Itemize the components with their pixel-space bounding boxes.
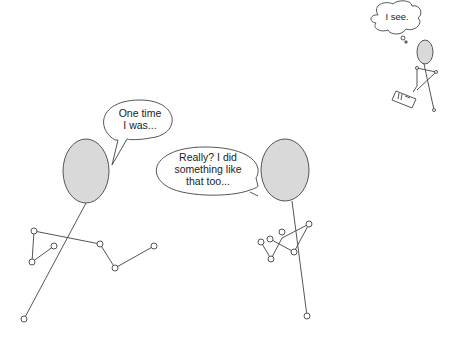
eavesdropper-figure xyxy=(392,40,438,112)
left-speaker-figure xyxy=(21,139,157,322)
notepad-icon xyxy=(392,91,416,108)
right-speech-line3: that too... xyxy=(164,175,252,187)
eavesdropper-head xyxy=(417,40,433,64)
comic-scene: One time I was... Really? I did somethin… xyxy=(0,0,453,339)
right-speech-line2: something like xyxy=(164,163,252,175)
right-speech-text: Really? I did something like that too... xyxy=(164,151,252,187)
left-speaker-head xyxy=(63,139,109,203)
left-speech-line2: I was... xyxy=(112,119,168,131)
left-speech-text: One time I was... xyxy=(112,107,168,131)
right-speech-line1: Really? I did xyxy=(164,151,252,163)
right-speaker-figure xyxy=(258,139,312,319)
right-speaker-head xyxy=(261,139,309,201)
left-speech-line1: One time xyxy=(112,107,168,119)
thought-text: I see. xyxy=(380,11,414,23)
thought-line: I see. xyxy=(385,11,408,22)
